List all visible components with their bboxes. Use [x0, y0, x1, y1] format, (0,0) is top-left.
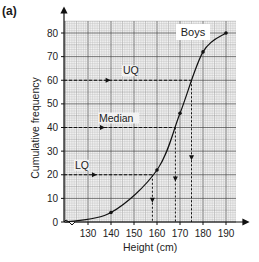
y-axis-label: Cumulative frequency — [29, 76, 41, 178]
svg-text:150: 150 — [126, 228, 143, 239]
annotation-lq: LQ — [75, 159, 89, 171]
svg-text:0: 0 — [52, 217, 58, 228]
svg-text:180: 180 — [195, 228, 212, 239]
x-axis-label: Height (cm) — [123, 241, 177, 253]
svg-text:80: 80 — [47, 28, 59, 39]
series-label: Boys — [181, 26, 206, 38]
svg-text:160: 160 — [149, 228, 166, 239]
svg-text:50: 50 — [47, 98, 59, 109]
svg-text:60: 60 — [47, 75, 59, 86]
svg-text:30: 30 — [47, 146, 59, 157]
svg-text:70: 70 — [47, 51, 59, 62]
svg-text:20: 20 — [47, 169, 59, 180]
svg-text:10: 10 — [47, 193, 59, 204]
svg-text:170: 170 — [172, 228, 189, 239]
annotation-median: Median — [99, 112, 134, 124]
svg-text:130: 130 — [80, 228, 97, 239]
svg-text:40: 40 — [47, 122, 59, 133]
svg-text:190: 190 — [218, 228, 235, 239]
svg-text:140: 140 — [103, 228, 120, 239]
annotation-uq: UQ — [123, 64, 139, 76]
grid — [64, 21, 236, 222]
cumulative-frequency-chart: 13014015016017018019001020304050607080 U… — [0, 0, 259, 262]
